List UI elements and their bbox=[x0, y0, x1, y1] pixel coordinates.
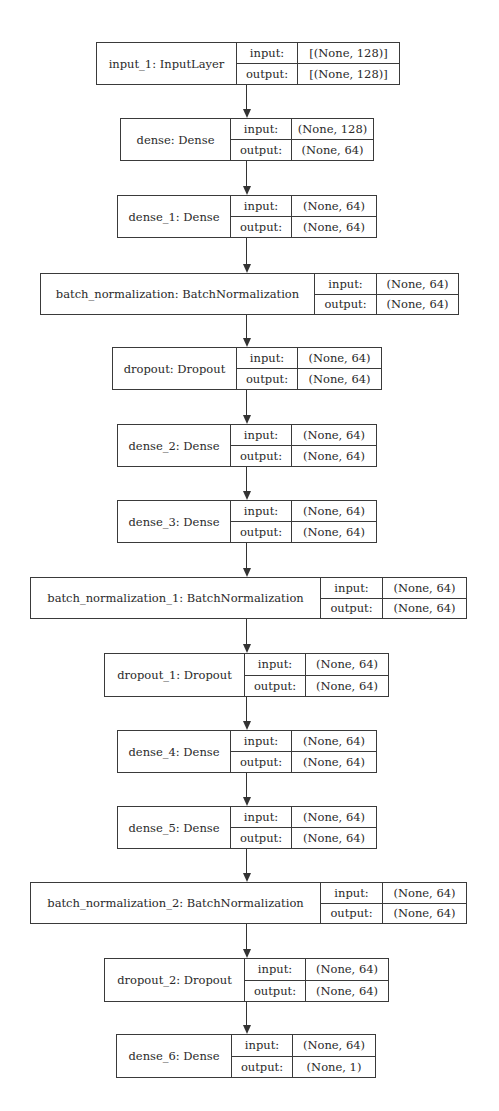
input-shape: (None, 128) bbox=[292, 119, 373, 140]
output-port-label: output: bbox=[231, 752, 291, 772]
layer-node-dense_2: dense_2: Dense input: output: (None, 64)… bbox=[117, 424, 377, 467]
input-shape: (None, 64) bbox=[383, 883, 466, 904]
output-shape: (None, 64) bbox=[383, 904, 466, 924]
port-labels: input: output: bbox=[315, 274, 377, 314]
layer-label: dropout_2: Dropout bbox=[105, 959, 245, 1001]
edge-line bbox=[246, 543, 247, 569]
output-port-label: output: bbox=[231, 522, 291, 542]
output-shape: (None, 64) bbox=[298, 369, 381, 389]
output-port-label: output: bbox=[321, 599, 382, 619]
output-shape: (None, 64) bbox=[292, 217, 376, 237]
edge-line bbox=[246, 849, 247, 874]
layer-node-batch_normalization_2: batch_normalization_2: BatchNormalizatio… bbox=[30, 882, 467, 924]
output-shape: (None, 64) bbox=[292, 522, 376, 542]
output-port-label: output: bbox=[232, 1057, 292, 1078]
shapes: (None, 64) (None, 64) bbox=[292, 807, 376, 848]
input-shape: (None, 64) bbox=[306, 654, 388, 676]
arrowhead-icon bbox=[243, 644, 251, 653]
layer-label: batch_normalization_1: BatchNormalizatio… bbox=[31, 578, 321, 618]
output-port-label: output: bbox=[231, 446, 291, 466]
output-port-label: output: bbox=[231, 217, 291, 237]
port-labels: input: output: bbox=[231, 425, 292, 466]
output-port-label: output: bbox=[231, 140, 291, 160]
output-port-label: output: bbox=[321, 904, 382, 924]
port-labels: input: output: bbox=[321, 578, 383, 618]
layer-label: dense_1: Dense bbox=[118, 196, 231, 237]
port-labels: input: output: bbox=[321, 883, 383, 923]
output-shape: [(None, 128)] bbox=[298, 64, 399, 84]
shapes: (None, 64) (None, 64) bbox=[292, 501, 376, 542]
shapes: (None, 64) (None, 64) bbox=[298, 348, 381, 389]
input-port-label: input: bbox=[321, 883, 382, 904]
port-labels: input: output: bbox=[231, 807, 292, 848]
input-port-label: input: bbox=[231, 731, 291, 752]
input-shape: (None, 64) bbox=[292, 501, 376, 522]
output-shape: (None, 64) bbox=[292, 752, 376, 772]
port-labels: input: output: bbox=[231, 731, 292, 772]
arrowhead-icon bbox=[243, 186, 251, 195]
layer-label: batch_normalization: BatchNormalization bbox=[41, 274, 315, 314]
layer-label: dense_2: Dense bbox=[118, 425, 231, 466]
edge-line bbox=[246, 85, 247, 110]
shapes: (None, 64) (None, 64) bbox=[383, 578, 466, 618]
layer-label: input_1: InputLayer bbox=[97, 43, 237, 84]
layer-label: batch_normalization_2: BatchNormalizatio… bbox=[31, 883, 321, 923]
output-shape: (None, 1) bbox=[293, 1057, 375, 1078]
arrowhead-icon bbox=[243, 338, 251, 347]
output-shape: (None, 64) bbox=[377, 295, 458, 315]
input-shape: (None, 64) bbox=[377, 274, 458, 295]
edge-line bbox=[246, 390, 247, 416]
input-port-label: input: bbox=[231, 196, 291, 217]
edge-line bbox=[246, 619, 247, 645]
edge-line bbox=[246, 238, 247, 265]
input-shape: (None, 64) bbox=[292, 425, 376, 446]
input-port-label: input: bbox=[237, 348, 297, 369]
arrowhead-icon bbox=[243, 721, 251, 730]
arrowhead-icon bbox=[243, 949, 251, 958]
edge-line bbox=[246, 315, 247, 339]
input-port-label: input: bbox=[231, 807, 291, 828]
output-shape: (None, 64) bbox=[292, 140, 373, 160]
port-labels: input: output: bbox=[231, 119, 292, 160]
arrowhead-icon bbox=[243, 1025, 251, 1034]
layer-node-dropout_2: dropout_2: Dropout input: output: (None,… bbox=[104, 958, 389, 1002]
input-port-label: input: bbox=[232, 1035, 292, 1057]
shapes: (None, 64) (None, 64) bbox=[292, 196, 376, 237]
arrowhead-icon bbox=[243, 491, 251, 500]
shapes: (None, 64) (None, 64) bbox=[377, 274, 458, 314]
input-shape: (None, 64) bbox=[293, 1035, 375, 1057]
layer-label: dense_6: Dense bbox=[117, 1035, 232, 1077]
output-shape: (None, 64) bbox=[306, 676, 388, 697]
shapes: (None, 64) (None, 64) bbox=[306, 654, 388, 696]
arrowhead-icon bbox=[243, 797, 251, 806]
shapes: [(None, 128)] [(None, 128)] bbox=[298, 43, 399, 84]
edge-line bbox=[246, 697, 247, 722]
output-shape: (None, 64) bbox=[383, 599, 466, 619]
port-labels: input: output: bbox=[237, 348, 298, 389]
layer-label: dense_4: Dense bbox=[118, 731, 231, 772]
input-shape: [(None, 128)] bbox=[298, 43, 399, 64]
layer-node-dense_3: dense_3: Dense input: output: (None, 64)… bbox=[117, 500, 377, 543]
arrowhead-icon bbox=[243, 109, 251, 118]
layer-node-dense_5: dense_5: Dense input: output: (None, 64)… bbox=[117, 806, 377, 849]
arrowhead-icon bbox=[243, 568, 251, 577]
shapes: (None, 64) (None, 64) bbox=[383, 883, 466, 923]
input-port-label: input: bbox=[245, 654, 305, 676]
shapes: (None, 64) (None, 1) bbox=[293, 1035, 375, 1077]
input-port-label: input: bbox=[315, 274, 376, 295]
input-shape: (None, 64) bbox=[306, 959, 388, 981]
input-port-label: input: bbox=[231, 501, 291, 522]
output-shape: (None, 64) bbox=[292, 446, 376, 466]
output-port-label: output: bbox=[237, 64, 297, 84]
input-shape: (None, 64) bbox=[292, 731, 376, 752]
port-labels: input: output: bbox=[232, 1035, 293, 1077]
port-labels: input: output: bbox=[237, 43, 298, 84]
port-labels: input: output: bbox=[231, 501, 292, 542]
input-shape: (None, 64) bbox=[292, 196, 376, 217]
layer-node-dense_1: dense_1: Dense input: output: (None, 64)… bbox=[117, 195, 377, 238]
layer-label: dropout_1: Dropout bbox=[105, 654, 245, 696]
shapes: (None, 64) (None, 64) bbox=[292, 731, 376, 772]
layer-node-dense: dense: Dense input: output: (None, 128) … bbox=[120, 118, 374, 161]
edge-line bbox=[246, 161, 247, 187]
layer-node-dropout: dropout: Dropout input: output: (None, 6… bbox=[112, 347, 382, 390]
